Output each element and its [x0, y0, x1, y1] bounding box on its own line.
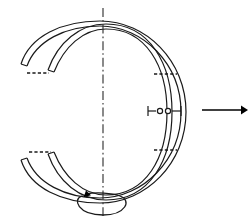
inner-band-cap-upper [48, 70, 54, 72]
dimension-dot-2-icon [165, 108, 170, 113]
figure-canvas [0, 0, 252, 222]
inner-split-band [48, 24, 172, 200]
dimension-dot-1-icon [157, 108, 162, 113]
technical-figure [0, 0, 252, 222]
translation-arrow-right [202, 106, 248, 115]
inner-band-inner-edge [54, 29, 167, 195]
outer-band-cap-upper [21, 64, 27, 66]
outer-band-cap-lower [21, 158, 27, 160]
translation-arrow-head-icon [241, 106, 248, 115]
dashed-callout-ticks [27, 73, 177, 152]
gap-dimension-dots [148, 106, 181, 116]
